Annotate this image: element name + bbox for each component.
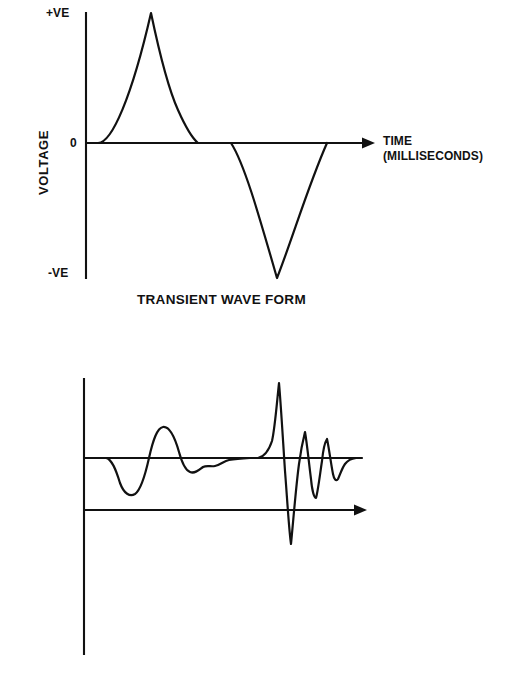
- figure-transient-wave-form: +VE 0 -VE VOLTAGE TIME (MILLISECONDS) TR…: [0, 0, 513, 346]
- transient-waveform-trace: [86, 13, 327, 278]
- tick-label-zero: 0: [70, 136, 77, 150]
- time-axis-arrow-icon: [362, 138, 375, 149]
- surges-and-spikes-plot: [0, 346, 513, 692]
- tick-label-negative-ve: -VE: [48, 266, 68, 280]
- tick-label-positive-ve: +VE: [46, 6, 69, 20]
- surges-and-spikes-waveform-trace: [84, 383, 362, 544]
- time-axis-title-line1: TIME: [383, 134, 412, 148]
- voltage-axis-title: VOLTAGE: [36, 130, 51, 195]
- time-axis-arrow-icon: [354, 505, 367, 516]
- figure-caption-transient: TRANSIENT WAVE FORM: [137, 292, 306, 308]
- figure-surges-and-spikes: +50V +12V 0 -VE VOLTAGE TIME (MILLISECON…: [0, 346, 513, 692]
- time-axis-title-line2: (MILLISECONDS): [383, 149, 483, 163]
